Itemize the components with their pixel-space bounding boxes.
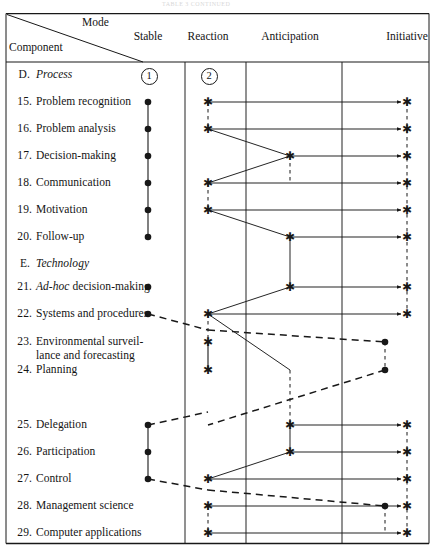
row-number: D. (8, 68, 30, 80)
row-label: Follow-up (36, 230, 84, 242)
row-label-italic-part: Ad-hoc (36, 280, 70, 292)
star-marker: ✱ (203, 336, 213, 348)
row-label: Decision-making (36, 149, 116, 161)
component-axis-label: Component (9, 41, 63, 53)
dot-marker (145, 476, 152, 483)
row-label: Control (36, 472, 72, 484)
star-marker: ✱ (402, 473, 412, 485)
dot-marker (145, 234, 152, 241)
row-number: 16. (6, 122, 32, 134)
row-number: 23. (6, 335, 32, 347)
column-header-initiative[interactable]: Initiative (367, 30, 435, 42)
solid-connector (208, 314, 290, 370)
solid-arrow-lines (208, 102, 401, 533)
row-label: Technology (36, 257, 89, 269)
vertical-dashed-links (208, 102, 407, 533)
row-number: 17. (6, 149, 32, 161)
solid-connector (208, 129, 290, 156)
star-marker: ✱ (203, 204, 213, 216)
dot-marker (145, 99, 152, 106)
star-marker: ✱ (402, 231, 412, 243)
star-marker: ✱ (285, 419, 295, 431)
chart-canvas: ✱✱✱✱✱✱✱✱✱✱✱✱✱✱✱✱✱✱✱✱✱✱✱✱✱✱✱✱ (0, 0, 435, 550)
row-label: Ad-hoc decision-making (36, 280, 150, 292)
dot-marker (382, 367, 389, 374)
row-label: Computer applications (36, 526, 142, 538)
star-marker: ✱ (402, 308, 412, 320)
row-label: Participation (36, 445, 95, 457)
row-number: 15. (6, 95, 32, 107)
stage-marker-2: 2 (201, 68, 218, 85)
table-frame (6, 14, 429, 544)
dashed-connector (148, 479, 208, 490)
star-marker: ✱ (203, 96, 213, 108)
star-markers: ✱✱✱✱✱✱✱✱✱✱✱✱✱✱✱✱✱✱✱✱✱✱✱✱✱✱✱✱ (203, 96, 412, 539)
solid-connector (208, 156, 290, 183)
dashed-connector-lines (148, 314, 385, 506)
star-marker: ✱ (402, 281, 412, 293)
star-marker: ✱ (203, 177, 213, 189)
row-number: 26. (6, 445, 32, 457)
row-label: Motivation (36, 203, 88, 215)
table-3-continued-chart: TABLE 3 CONTINUED ✱✱✱✱✱✱✱✱✱✱✱✱✱✱✱✱✱✱✱✱✱✱… (0, 0, 435, 550)
solid-connector (208, 452, 290, 479)
star-marker: ✱ (203, 473, 213, 485)
row-label: Delegation (36, 418, 87, 430)
dashed-connector (148, 412, 208, 425)
star-marker: ✱ (203, 123, 213, 135)
row-number: 20. (6, 230, 32, 242)
row-label: Problem recognition (36, 95, 131, 107)
dot-marker (145, 422, 152, 429)
vertical-solid-links (148, 102, 208, 479)
dot-marker (145, 180, 152, 187)
dot-marker (382, 339, 389, 346)
solid-connector (208, 210, 290, 237)
dot-marker (382, 503, 389, 510)
dot-markers (145, 99, 389, 510)
star-marker: ✱ (402, 177, 412, 189)
row-number: 19. (6, 203, 32, 215)
star-marker: ✱ (203, 500, 213, 512)
dot-marker (145, 207, 152, 214)
solid-connector (208, 287, 290, 314)
star-marker: ✱ (402, 446, 412, 458)
row-number: 28. (6, 499, 32, 511)
row-number: 27. (6, 472, 32, 484)
solid-connector-lines (208, 129, 290, 479)
row-number: 29. (6, 526, 32, 538)
star-marker: ✱ (203, 527, 213, 539)
row-number: 21. (6, 280, 32, 292)
row-number: 25. (6, 418, 32, 430)
row-label: Problem analysis (36, 122, 116, 134)
row-label: Management science (36, 499, 134, 511)
row-label-line2: lance and forecasting (36, 349, 135, 361)
dot-marker (145, 449, 152, 456)
star-marker: ✱ (285, 446, 295, 458)
column-header-reaction[interactable]: Reaction (168, 30, 248, 42)
dashed-connector (148, 314, 208, 330)
dashed-connector (208, 490, 385, 506)
star-marker: ✱ (203, 364, 213, 376)
row-label: Environmental surveil- (36, 335, 143, 347)
star-marker: ✱ (402, 96, 412, 108)
star-marker: ✱ (402, 150, 412, 162)
row-label: Communication (36, 176, 111, 188)
star-marker: ✱ (402, 500, 412, 512)
star-marker: ✱ (402, 527, 412, 539)
row-label: Systems and procedures (36, 307, 148, 319)
star-marker: ✱ (402, 419, 412, 431)
star-marker: ✱ (285, 231, 295, 243)
dot-marker (145, 126, 152, 133)
star-marker: ✱ (203, 308, 213, 320)
star-marker: ✱ (285, 150, 295, 162)
star-marker: ✱ (402, 123, 412, 135)
row-number: E. (8, 257, 30, 269)
row-label: Process (36, 68, 72, 80)
row-number: 24. (6, 363, 32, 375)
star-marker: ✱ (285, 281, 295, 293)
row-number: 18. (6, 176, 32, 188)
mode-axis-label: Mode (82, 16, 109, 28)
column-header-anticipation[interactable]: Anticipation (250, 30, 330, 42)
row-number: 22. (6, 307, 32, 319)
star-marker: ✱ (402, 204, 412, 216)
